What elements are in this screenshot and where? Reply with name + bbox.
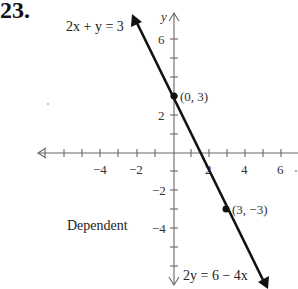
line-upper-arrow-icon bbox=[131, 14, 142, 27]
point-0-3 bbox=[171, 93, 178, 100]
x-tick-label: 4 bbox=[241, 162, 248, 177]
x-tick-label: −4 bbox=[93, 162, 107, 177]
y-tick-label: −2 bbox=[152, 183, 166, 198]
y-axis-label: y bbox=[159, 9, 167, 24]
decorative-dot bbox=[295, 170, 297, 172]
y-tick-label: 6 bbox=[158, 32, 165, 47]
point-label: (0, 3) bbox=[180, 89, 208, 104]
y-tick-labels: 6 2 −2 −4 bbox=[152, 32, 166, 236]
y-axis bbox=[169, 13, 179, 285]
x-axis bbox=[38, 148, 298, 158]
problem-number: 23. bbox=[0, 0, 30, 24]
x-tick-label: −2 bbox=[129, 162, 143, 177]
x-tick-label: 6 bbox=[277, 162, 284, 177]
decorative-dot bbox=[47, 103, 49, 105]
coordinate-plane: −4 −2 2 4 6 6 2 −2 −4 y (0, 3) (3, −3) bbox=[0, 0, 298, 289]
classification-label: Dependent bbox=[67, 218, 128, 234]
y-tick-label: 2 bbox=[158, 108, 165, 123]
equation-label-first: 2x + y = 3 bbox=[66, 19, 124, 35]
y-tick-label: −4 bbox=[152, 221, 166, 236]
point-label: (3, −3) bbox=[232, 202, 268, 217]
solution-line bbox=[131, 14, 269, 289]
point-3-neg3 bbox=[223, 206, 230, 213]
x-tick-labels: −4 −2 2 4 6 bbox=[93, 162, 284, 177]
equation-label-second: 2y = 6 − 4x bbox=[183, 268, 248, 284]
graph-figure: 23. bbox=[0, 0, 298, 289]
line-lower-arrow-icon bbox=[258, 276, 269, 289]
